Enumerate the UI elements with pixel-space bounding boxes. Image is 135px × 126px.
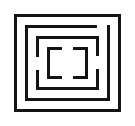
maze-glyph-canvas <box>0 0 135 126</box>
maze-glyph-svg <box>0 0 135 126</box>
glyph-background <box>0 0 135 126</box>
